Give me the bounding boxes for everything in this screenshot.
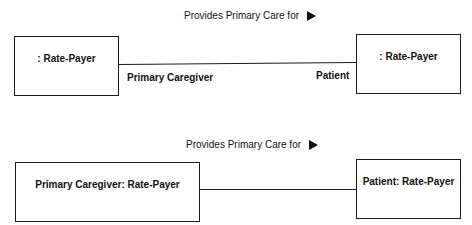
object-box-right-top: : Rate-Payer [356,34,461,94]
role-primary-caregiver: Primary Caregiver [127,72,213,83]
object-box-left-bottom: Primary Caregiver: Rate-Payer [15,162,200,222]
object-label: Primary Caregiver: Rate-Payer [16,179,199,190]
direction-arrow-icon [307,11,316,21]
association-name-top: Provides Primary Care for [184,10,316,21]
object-label: : Rate-Payer [357,51,460,62]
role-patient: Patient [316,70,349,81]
object-box-right-bottom: Patient: Rate-Payer [356,159,461,219]
association-label: Provides Primary Care for [186,139,301,150]
object-box-left-top: : Rate-Payer [14,36,119,96]
object-label: : Rate-Payer [15,53,118,64]
association-label: Provides Primary Care for [184,10,299,21]
direction-arrow-icon [309,140,318,150]
association-line-bottom [200,189,356,190]
association-name-bottom: Provides Primary Care for [186,139,318,150]
object-label: Patient: Rate-Payer [357,176,460,187]
association-line-top [119,62,356,65]
